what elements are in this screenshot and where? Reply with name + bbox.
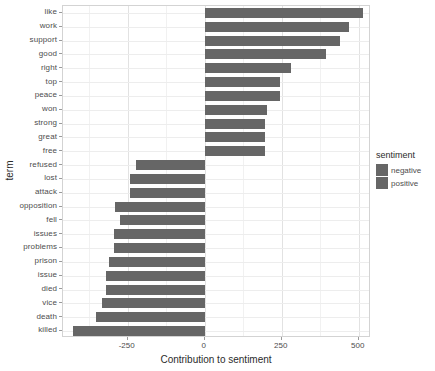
- x-tick-label-250: 250: [274, 341, 287, 350]
- bar-top: [205, 77, 280, 87]
- y-tick-label-opposition: opposition: [14, 199, 58, 213]
- plot-panel: [62, 5, 370, 337]
- y-tick-label-lost: lost: [14, 171, 58, 185]
- bar-right: [205, 63, 291, 73]
- y-tick-label-strong: strong: [14, 116, 58, 130]
- bar-like: [205, 8, 364, 18]
- bar-death: [96, 312, 205, 322]
- bar-vice: [102, 298, 205, 308]
- y-tick-label-right: right: [14, 60, 58, 74]
- x-tick-mark-250: [281, 337, 282, 340]
- x-tick-label-500: 500: [351, 341, 364, 350]
- sentiment-contribution-bar-chart: term likeworksupportgoodrighttoppeacewon…: [0, 0, 435, 371]
- x-tick-mark-0: [204, 337, 205, 340]
- y-tick-label-problems: problems: [14, 240, 58, 254]
- y-tick-label-died: died: [14, 282, 58, 296]
- bars-layer: [63, 6, 369, 336]
- bar-issues: [114, 229, 205, 239]
- y-tick-label-death: death: [14, 309, 58, 323]
- y-tick-label-attack: attack: [14, 185, 58, 199]
- bar-fell: [120, 215, 204, 225]
- y-tick-label-support: support: [14, 33, 58, 47]
- bar-lost: [130, 174, 205, 184]
- bar-refused: [136, 160, 205, 170]
- x-axis-tick-labels: -2500250500: [62, 341, 370, 353]
- y-tick-label-prison: prison: [14, 254, 58, 268]
- y-tick-label-won: won: [14, 102, 58, 116]
- bar-support: [205, 36, 340, 46]
- bar-issue: [106, 271, 205, 281]
- bar-peace: [205, 91, 280, 101]
- legend-label-positive: positive: [391, 179, 418, 188]
- legend-item-positive[interactable]: positive: [376, 177, 434, 189]
- legend: sentiment negativepositive: [376, 150, 434, 190]
- y-axis-tick-labels: likeworksupportgoodrighttoppeacewonstron…: [14, 5, 58, 337]
- x-tick-label--250: -250: [119, 341, 135, 350]
- bar-won: [205, 105, 267, 115]
- bar-opposition: [115, 202, 205, 212]
- bar-work: [205, 22, 349, 32]
- y-tick-label-peace: peace: [14, 88, 58, 102]
- y-tick-label-free: free: [14, 143, 58, 157]
- y-tick-label-vice: vice: [14, 295, 58, 309]
- y-axis-title-text: term: [4, 160, 15, 180]
- bar-great: [205, 132, 265, 142]
- bar-attack: [130, 188, 205, 198]
- bar-strong: [205, 119, 265, 129]
- legend-swatch-negative: [376, 164, 388, 176]
- legend-item-negative[interactable]: negative: [376, 164, 434, 176]
- x-tick-mark--250: [127, 337, 128, 340]
- y-tick-label-issues: issues: [14, 226, 58, 240]
- bar-killed: [73, 326, 205, 336]
- bar-died: [106, 285, 205, 295]
- legend-title: sentiment: [376, 150, 434, 160]
- x-axis-title: Contribution to sentiment: [62, 354, 370, 365]
- bar-problems: [114, 243, 205, 253]
- y-tick-label-fell: fell: [14, 212, 58, 226]
- bar-free: [205, 146, 265, 156]
- y-tick-label-killed: killed: [14, 323, 58, 337]
- y-tick-label-issue: issue: [14, 268, 58, 282]
- x-tick-mark-500: [358, 337, 359, 340]
- legend-items: negativepositive: [376, 164, 434, 189]
- y-tick-label-like: like: [14, 5, 58, 19]
- y-tick-label-top: top: [14, 74, 58, 88]
- y-tick-label-great: great: [14, 129, 58, 143]
- bar-good: [205, 49, 327, 59]
- y-tick-label-refused: refused: [14, 157, 58, 171]
- x-tick-label-0: 0: [201, 341, 205, 350]
- y-tick-label-work: work: [14, 19, 58, 33]
- legend-label-negative: negative: [391, 166, 421, 175]
- legend-swatch-positive: [376, 177, 388, 189]
- bar-prison: [109, 257, 205, 267]
- y-tick-label-good: good: [14, 46, 58, 60]
